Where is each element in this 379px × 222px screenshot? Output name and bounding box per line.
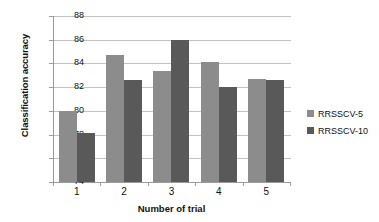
bar bbox=[59, 111, 77, 182]
bar bbox=[248, 79, 266, 182]
bar bbox=[201, 62, 219, 182]
x-tick-mark bbox=[148, 182, 149, 186]
y-axis-title: Classification accuracy bbox=[19, 6, 30, 166]
bar bbox=[153, 71, 171, 182]
x-tick-mark bbox=[290, 182, 291, 186]
legend-item: RRSSCV-5 bbox=[307, 105, 368, 122]
bar bbox=[77, 133, 95, 182]
bar bbox=[219, 87, 237, 182]
legend-item: RRSSCV-10 bbox=[307, 122, 368, 139]
x-tick-mark bbox=[195, 182, 196, 186]
legend-label: RRSSCV-10 bbox=[318, 126, 368, 136]
bar-group bbox=[195, 16, 242, 182]
bar-group bbox=[100, 16, 147, 182]
gridline bbox=[54, 182, 291, 183]
bars-layer bbox=[53, 16, 290, 182]
x-tick-mark bbox=[100, 182, 101, 186]
legend-label: RRSSCV-5 bbox=[318, 109, 363, 119]
bar-chart: Classification accuracy 7476788082848688… bbox=[0, 0, 379, 222]
legend-swatch-icon bbox=[307, 110, 314, 117]
x-tick-label: 5 bbox=[246, 186, 286, 197]
x-tick-label: 2 bbox=[104, 186, 144, 197]
bar bbox=[106, 55, 124, 182]
legend-swatch-icon bbox=[307, 127, 314, 134]
bar-group bbox=[53, 16, 100, 182]
bar-group bbox=[243, 16, 290, 182]
x-tick-mark bbox=[243, 182, 244, 186]
legend: RRSSCV-5RRSSCV-10 bbox=[307, 105, 368, 139]
x-axis-title: Number of trial bbox=[53, 203, 290, 214]
x-tick-mark bbox=[53, 182, 54, 186]
bar-group bbox=[148, 16, 195, 182]
x-tick-label: 3 bbox=[152, 186, 192, 197]
x-tick-label: 1 bbox=[57, 186, 97, 197]
bar bbox=[124, 80, 142, 182]
bar bbox=[266, 80, 284, 182]
bar bbox=[171, 40, 189, 182]
x-tick-label: 4 bbox=[199, 186, 239, 197]
